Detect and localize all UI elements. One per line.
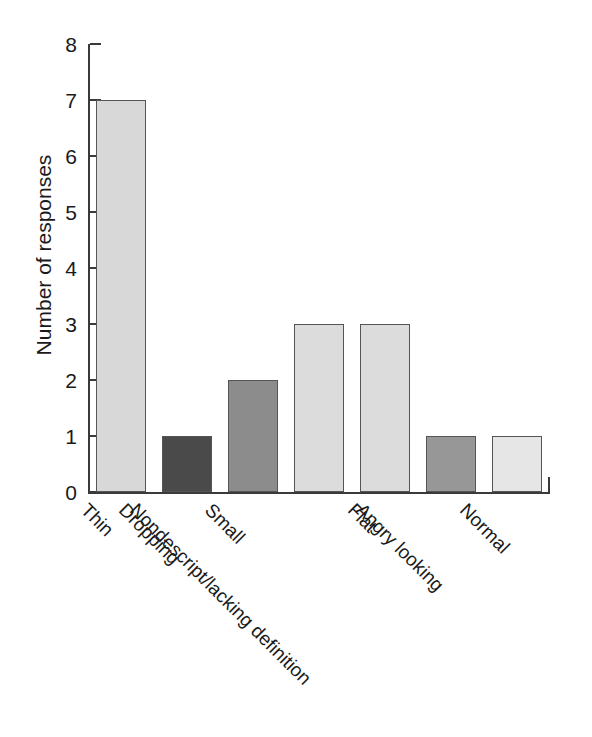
y-axis-tick-label: 5	[65, 202, 88, 223]
y-axis-tick-label: 3	[65, 314, 88, 335]
x-axis-tick-label: Thin	[77, 500, 117, 540]
plot-area: 012345678	[88, 44, 550, 494]
bar-chart-figure: Number of responses 012345678 ThinDroppi…	[0, 0, 592, 737]
x-axis-tick-labels: ThinDroppingSmallNondescript/lacking def…	[88, 494, 588, 734]
y-axis-tick-label: 2	[65, 370, 88, 391]
y-axis-tick-label: 4	[65, 258, 88, 279]
y-axis-tick-label: 6	[65, 146, 88, 167]
bar	[426, 436, 476, 492]
y-axis-title: Number of responses	[24, 5, 64, 505]
y-axis-tick-mark	[90, 43, 101, 45]
x-axis-tick-label: Small	[202, 500, 249, 547]
y-axis-tick-label: 7	[65, 90, 88, 111]
x-axis-tick-label: Normal	[456, 500, 513, 557]
bar	[96, 100, 146, 492]
x-axis-tick-label: Angry looking	[352, 500, 447, 595]
y-axis-tick: 8	[88, 43, 101, 45]
bar	[492, 436, 542, 492]
y-axis-tick-label: 1	[65, 426, 88, 447]
bar	[162, 436, 212, 492]
x-axis-right-end-tick	[548, 477, 550, 494]
bar	[228, 380, 278, 492]
bar	[294, 324, 344, 492]
bar	[360, 324, 410, 492]
y-axis-tick-label: 0	[65, 482, 88, 503]
y-axis-tick-label: 8	[65, 34, 88, 55]
y-axis-line	[88, 44, 90, 494]
